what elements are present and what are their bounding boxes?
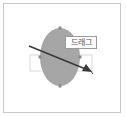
handle-top[interactable] <box>59 27 62 30</box>
drag-illustration <box>0 0 126 117</box>
drag-label: 드래그 <box>65 36 97 49</box>
handle-bottom[interactable] <box>59 85 62 88</box>
handle-right[interactable] <box>79 56 82 59</box>
handle-left[interactable] <box>39 56 42 59</box>
